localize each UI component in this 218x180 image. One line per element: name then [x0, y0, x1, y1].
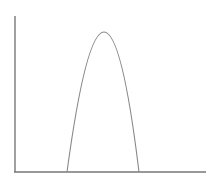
curve-line [67, 32, 139, 172]
chart [0, 0, 218, 180]
